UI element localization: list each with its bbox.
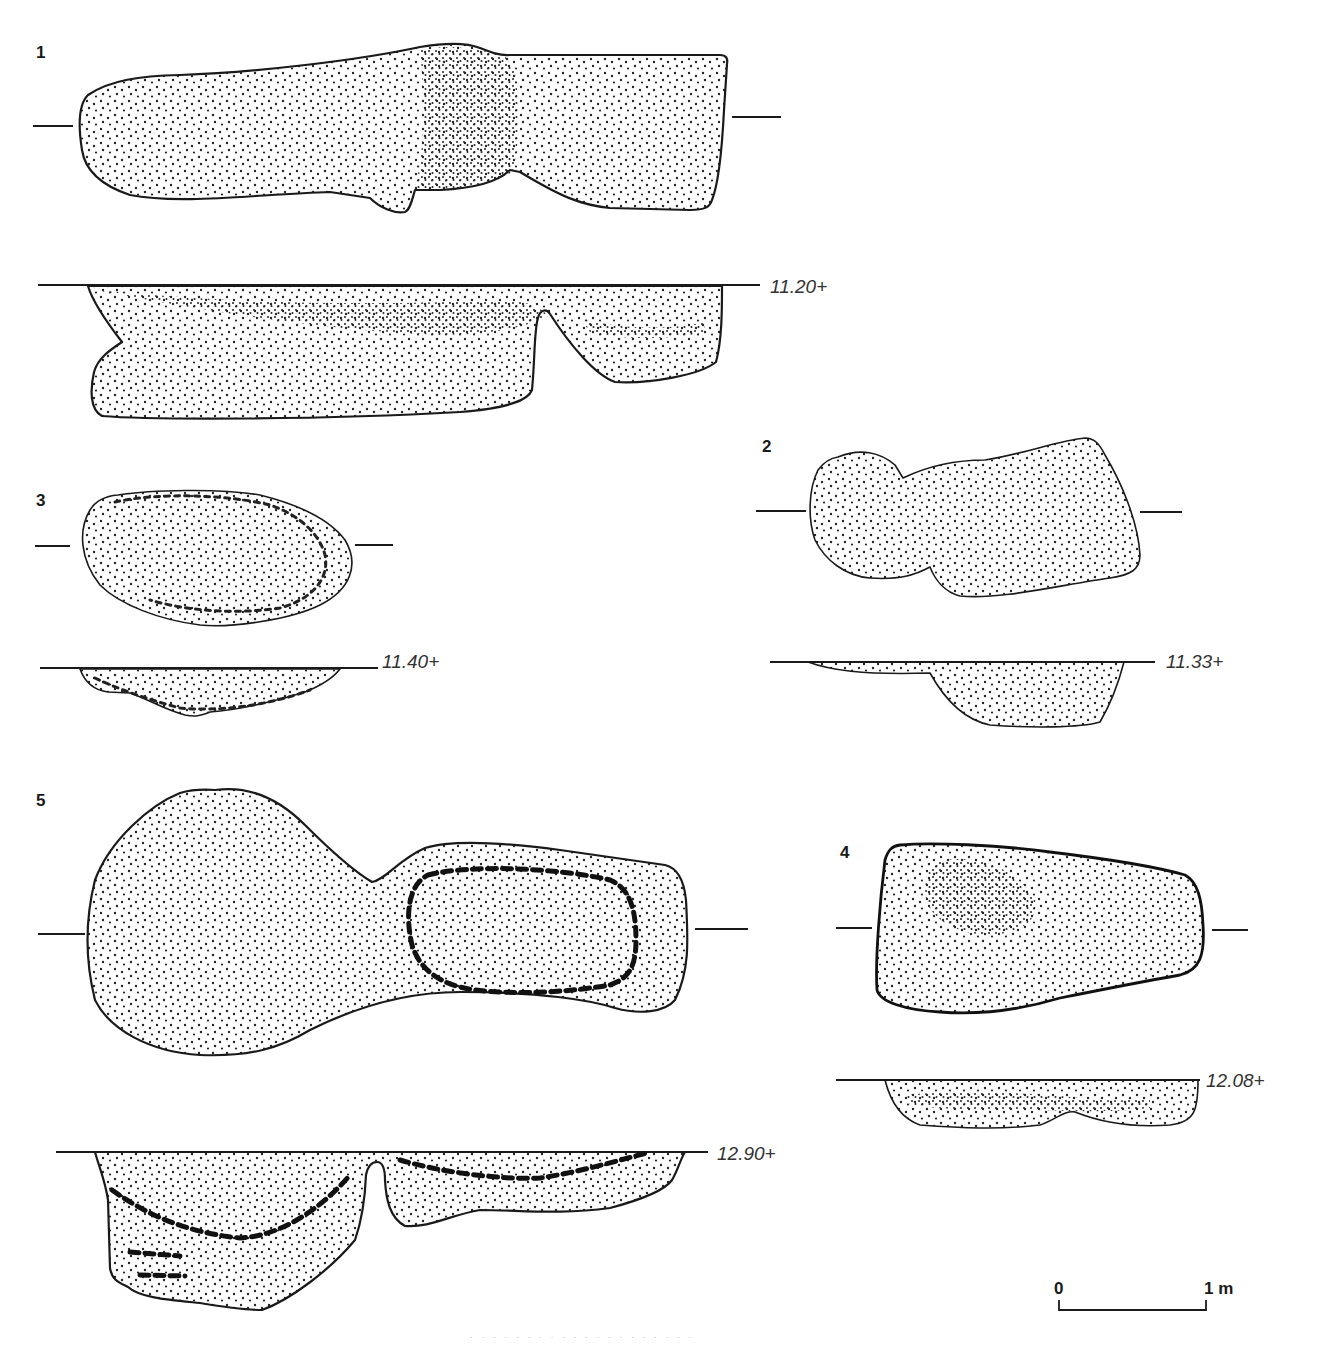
feature-5-section: 12.90+ [56,1143,776,1310]
feature-2-section: 11.33+ [770,651,1223,727]
scale-start-label: 0 [1054,1279,1063,1298]
feature-5-plan-outline [88,789,688,1055]
feature-5-plan: 5 [36,789,748,1055]
scale-bar: 0 1 m [1054,1279,1233,1310]
feature-5-section-outline [95,1152,685,1310]
feature-3-plan: 3 [35,490,393,625]
feature-3-level: 11.40+ [382,651,439,672]
feature-4-plan-outline [877,844,1204,1013]
scale-bar-line [1059,1300,1206,1310]
feature-1-level: 11.20+ [770,276,827,297]
feature-2-label: 2 [762,437,771,456]
feature-4-section: 12.08+ [836,1070,1265,1128]
feature-3-label: 3 [36,491,45,510]
feature-5-label: 5 [36,791,45,810]
footer-caption-fragment: · · · · · · · · · · · · · · · · · · · · [470,1332,694,1342]
feature-1-label: 1 [36,43,45,62]
feature-1-plan: 1 [33,43,781,212]
feature-3-section: 11.40+ [40,651,439,716]
figure-plate: 1 11.20+ 3 11.40+ 2 11.33+ [0,0,1330,1345]
feature-5-level: 12.90+ [717,1143,776,1164]
scale-end-label: 1 m [1204,1279,1233,1298]
feature-3-plan-outline [83,490,352,625]
feature-1-plan-outline [80,44,728,212]
feature-2-section-outline [808,662,1124,727]
feature-1-dense-fill [415,47,518,190]
feature-4-level: 12.08+ [1206,1070,1265,1091]
feature-2-plan: 2 [756,437,1182,597]
feature-2-plan-outline [810,438,1140,597]
feature-4-label: 4 [840,843,850,862]
feature-4-plan: 4 [836,843,1248,1013]
feature-1-section: 11.20+ [38,276,827,419]
feature-2-level: 11.33+ [1166,651,1223,672]
